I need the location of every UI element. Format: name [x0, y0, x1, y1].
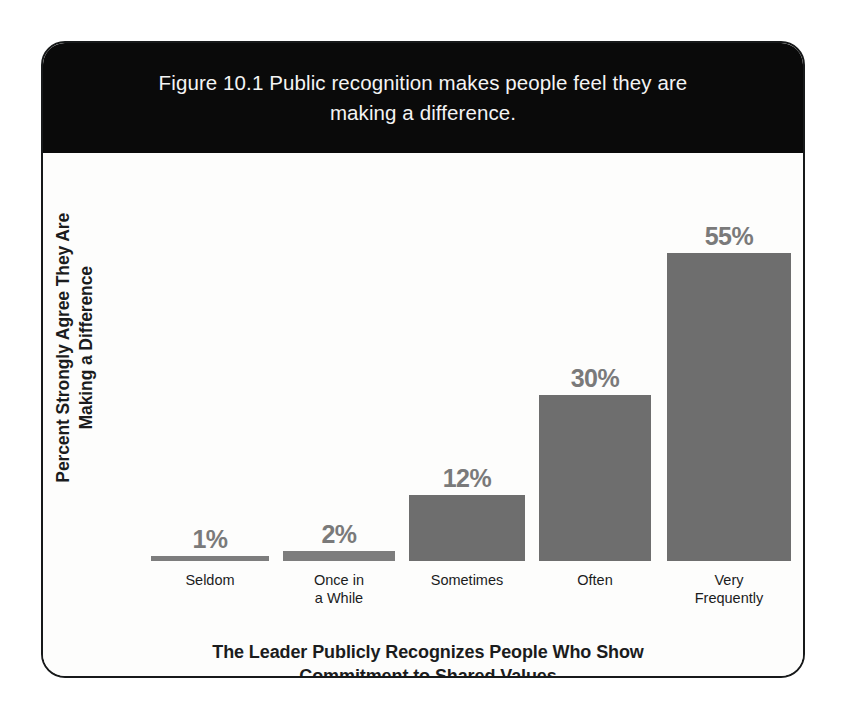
- bar-slot-seldom: 1%: [151, 161, 269, 561]
- bar-slot-once-in-a-while: 2%: [283, 161, 395, 561]
- figure-title-banner: Figure 10.1 Public recognition makes peo…: [43, 43, 803, 153]
- figure-frame: Figure 10.1 Public recognition makes peo…: [41, 41, 805, 678]
- bar-column[interactable]: 55%: [667, 161, 791, 561]
- bar-column[interactable]: 12%: [409, 161, 525, 561]
- bar-column[interactable]: 1%: [151, 161, 269, 561]
- y-axis-label: Percent Strongly Agree They Are Making a…: [52, 168, 98, 528]
- bar-rect[interactable]: [151, 556, 269, 561]
- category-label-seldom: Seldom: [151, 571, 269, 589]
- bar-column[interactable]: 30%: [539, 161, 651, 561]
- x-axis-label: The Leader Publicly Recognizes People Wh…: [103, 640, 753, 678]
- plot-body: Percent Strongly Agree They Are Making a…: [43, 153, 803, 678]
- bar-slot-sometimes: 12%: [409, 161, 525, 561]
- bar-value-label: 30%: [571, 366, 620, 391]
- bar-rect[interactable]: [539, 395, 651, 561]
- bar-rect[interactable]: [667, 253, 791, 561]
- bar-slot-very-frequently: 55%: [667, 161, 791, 561]
- category-axis: Seldom Once in a While Sometimes Often V…: [151, 571, 791, 631]
- bar-slot-often: 30%: [539, 161, 651, 561]
- bar-value-label: 1%: [192, 527, 227, 552]
- bar-value-label: 12%: [443, 466, 492, 491]
- bar-value-label: 2%: [321, 522, 356, 547]
- category-label-very-frequently: Very Frequently: [667, 571, 791, 607]
- bar-value-label: 55%: [705, 224, 754, 249]
- category-label-sometimes: Sometimes: [407, 571, 527, 589]
- bar-rect[interactable]: [409, 495, 525, 561]
- plot-area: 1% 2% 12% 30%: [151, 161, 791, 561]
- figure-title: Figure 10.1 Public recognition makes peo…: [159, 68, 688, 127]
- category-label-once-in-a-while: Once in a While: [283, 571, 395, 607]
- category-label-often: Often: [539, 571, 651, 589]
- bar-column[interactable]: 2%: [283, 161, 395, 561]
- bar-rect[interactable]: [283, 551, 395, 561]
